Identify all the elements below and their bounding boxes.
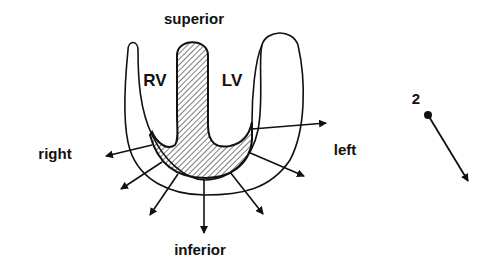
label-lead-number: 2 (412, 90, 420, 107)
lead-2-vector (424, 111, 468, 181)
lead-2-arrow (428, 115, 468, 181)
label-superior: superior (164, 10, 224, 27)
label-left: left (334, 141, 357, 158)
arrow-left (252, 123, 326, 129)
arrow-inferior-right (150, 174, 178, 215)
hatched-septum-apex (150, 42, 252, 178)
label-lv: LV (222, 71, 243, 90)
label-right: right (38, 145, 71, 162)
label-inferior: inferior (174, 241, 226, 258)
label-rv: RV (143, 71, 167, 90)
heart-vector-diagram: superior inferior right left RV LV 2 (0, 0, 497, 264)
arrow-right-inferior (121, 162, 162, 189)
arrow-left-inferior (248, 152, 304, 176)
